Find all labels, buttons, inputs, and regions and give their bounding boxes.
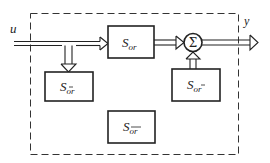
block-s-or: Sor <box>108 26 154 58</box>
block-s-obar-r: Sor <box>45 72 93 101</box>
block-diagram: u Sor Σ y <box>0 0 270 163</box>
input-label: u <box>10 21 17 36</box>
arrow-to-sum <box>154 36 184 49</box>
branch-arrow-down <box>61 46 76 73</box>
output-arrow <box>202 35 258 50</box>
sigma-symbol: Σ <box>189 36 197 50</box>
block-s-o-rbar: Sor <box>172 69 220 101</box>
block-s-obar-rbar: Sor <box>108 111 155 143</box>
output-label: y <box>243 14 250 28</box>
summing-junction: Σ <box>184 34 202 52</box>
input-arrow <box>14 37 108 50</box>
arrow-up-to-sum <box>186 52 200 69</box>
